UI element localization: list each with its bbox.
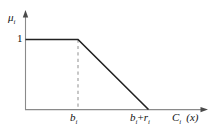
x-axis-label-argument: (x): [186, 111, 198, 123]
y-axis-label: μi: [8, 12, 15, 26]
x-axis-arrow-right-icon: [201, 107, 209, 112]
y-axis-arrow-up-icon: [23, 10, 28, 18]
membership-curve: [26, 40, 149, 110]
x-tick-bi-subscript: i: [76, 118, 78, 125]
x-tick-biri-subscript-r: i: [148, 118, 150, 125]
y-axis-label-subscript: i: [14, 18, 16, 25]
x-axis-label-subscript: i: [179, 118, 181, 125]
y-tick-value: 1: [17, 32, 23, 44]
y-tick-label-1: 1: [17, 33, 23, 44]
x-tick-label-bi: bi: [70, 112, 77, 126]
x-tick-label-bi-plus-ri: bi+ri: [130, 112, 150, 126]
x-axis-label: Ci(x): [172, 112, 198, 126]
chart-figure: μi 1 bi bi+ri Ci(x): [0, 0, 214, 131]
